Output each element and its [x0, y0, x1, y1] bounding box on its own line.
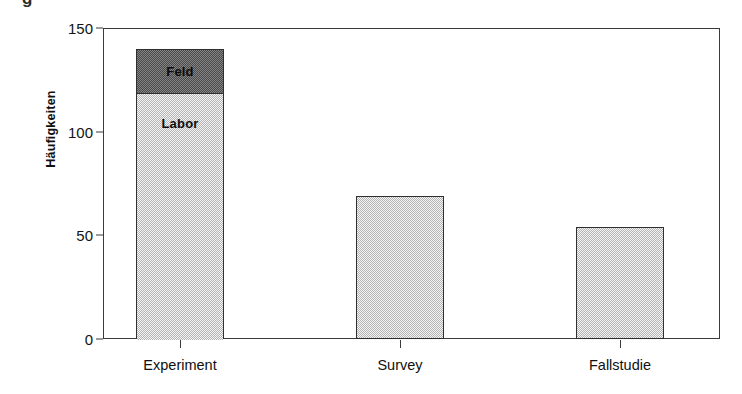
x-tick-mark-experiment	[180, 340, 181, 348]
y-tick-label-0: 0	[41, 331, 93, 348]
y-tick-label-100: 100	[41, 123, 93, 140]
bar-survey[interactable]	[356, 196, 444, 339]
y-tick-mark-150	[96, 28, 103, 29]
bar-experiment[interactable]: Feld Labor	[136, 49, 224, 339]
y-tick-mark-50	[96, 235, 103, 236]
segment-label-feld: Feld	[166, 64, 194, 79]
cropped-title-artifact: g	[22, 0, 32, 9]
bar-fallstudie[interactable]	[576, 227, 664, 339]
x-tick-label-fallstudie: Fallstudie	[510, 357, 730, 373]
x-tick-label-survey: Survey	[290, 357, 510, 373]
y-tick-label-50: 50	[41, 227, 93, 244]
bar-chart-figure: g Häufigkeiten 150 100 50 0 Feld Labor	[0, 0, 742, 394]
bar-segment-experiment-labor[interactable]: Labor	[137, 93, 223, 340]
y-tick-mark-100	[96, 131, 103, 132]
x-tick-mark-fallstudie	[620, 340, 621, 348]
x-tick-label-experiment: Experiment	[70, 357, 290, 373]
y-tick-label-150: 150	[41, 20, 93, 37]
y-tick-mark-0	[96, 339, 103, 340]
x-tick-mark-survey	[400, 340, 401, 348]
bar-segment-experiment-feld[interactable]: Feld	[137, 50, 223, 93]
segment-label-labor: Labor	[161, 116, 198, 131]
